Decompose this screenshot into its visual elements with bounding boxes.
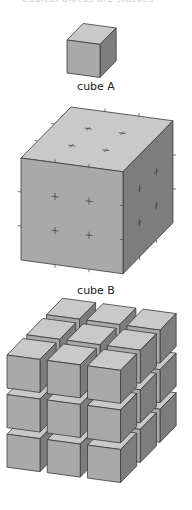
cube-a-label: cube A: [0, 80, 192, 93]
front-face: [88, 366, 121, 403]
front-face: [47, 360, 80, 397]
cubes-diagram: [0, 0, 192, 510]
front-face: [7, 434, 40, 471]
front-face: [88, 405, 121, 442]
front-face: [21, 158, 123, 274]
front-face: [67, 40, 100, 77]
cube-b-body: [21, 107, 173, 274]
front-face: [7, 355, 40, 392]
front-face: [7, 395, 40, 432]
front-face: [88, 445, 121, 482]
cube-b: [18, 107, 176, 274]
cube-b-label: cube B: [0, 284, 192, 297]
front-face: [47, 440, 80, 477]
front-face: [47, 400, 80, 437]
cube-a: [67, 24, 116, 78]
cube-stack: [7, 298, 176, 482]
